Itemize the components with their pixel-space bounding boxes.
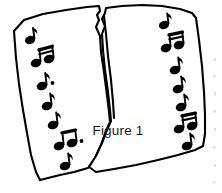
torn-paper-figure-drawing: Figure 1 (0, 0, 222, 193)
scan-edge-artifacts (213, 58, 216, 183)
figure-caption: Figure 1 (92, 123, 143, 138)
paper-left-half (14, 6, 110, 180)
figure-illustration: Figure 1 (0, 0, 222, 193)
